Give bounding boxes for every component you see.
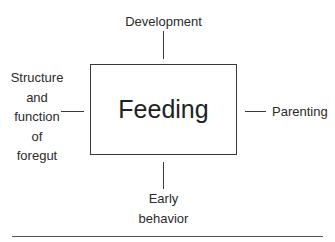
top-node-label: Development: [120, 15, 207, 28]
left-node-label: Structure and function of foregut: [4, 68, 70, 166]
bottom-node-label-line: behavior: [120, 212, 207, 225]
horizontal-rule: [12, 236, 323, 237]
left-node-line: function: [4, 107, 70, 127]
bottom-node-label-line: Early: [120, 192, 207, 205]
left-node-line: and: [4, 88, 70, 108]
bottom-connector: [163, 162, 164, 189]
top-connector: [163, 31, 164, 59]
right-node-label: Parenting: [272, 105, 328, 118]
left-node-line: Structure: [4, 68, 70, 88]
left-node-line: of: [4, 127, 70, 147]
center-node-label: Feeding: [91, 96, 236, 122]
center-node-box: Feeding: [90, 64, 237, 155]
left-node-line: foregut: [4, 146, 70, 166]
right-connector: [245, 111, 266, 112]
left-connector: [61, 111, 84, 112]
